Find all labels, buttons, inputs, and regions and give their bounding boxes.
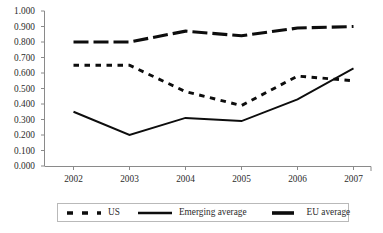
legend-label-emerging-average: Emerging average: [179, 208, 247, 217]
x-tick-label: 2007: [344, 174, 363, 184]
legend-swatch-us-icon: [66, 207, 102, 219]
series-line-eu-average: [74, 27, 354, 43]
legend-label-eu-average: EU average: [307, 208, 351, 217]
y-tick-label: 0.300: [14, 115, 35, 125]
x-tick-label: 2004: [176, 174, 195, 184]
y-tick-label: 1.000: [14, 6, 35, 16]
y-tick-label: 0.400: [14, 99, 35, 109]
x-tick-label: 2006: [288, 174, 307, 184]
y-tick-label: 0.100: [14, 146, 35, 156]
legend-swatch-eu-average-icon: [265, 207, 301, 219]
x-tick-label: 2005: [232, 174, 251, 184]
legend-swatch-emerging-average-icon: [137, 207, 173, 219]
y-tick-label: 0.800: [14, 37, 35, 47]
y-tick-label: 0.700: [14, 53, 35, 63]
y-tick-label: 0.200: [14, 130, 35, 140]
y-tick-label: 0.000: [14, 161, 35, 171]
y-axis-tick-labels: 1.000 0.900 0.800 0.700 0.600 0.500 0.40…: [14, 6, 35, 171]
x-axis-tick-labels: 2002 2003 2004 2005 2006 2007: [64, 174, 363, 184]
series-line-us: [74, 65, 354, 105]
line-chart-plot: 1.000 0.900 0.800 0.700 0.600 0.500 0.40…: [0, 0, 383, 233]
legend-item-eu-average: EU average: [265, 204, 351, 221]
x-tick-label: 2002: [64, 174, 83, 184]
chart-figure: 1.000 0.900 0.800 0.700 0.600 0.500 0.40…: [0, 0, 383, 233]
y-tick-label: 0.500: [14, 84, 35, 94]
chart-legend: US Emerging average EU average: [57, 203, 349, 222]
y-axis: [41, 11, 45, 166]
x-axis: [45, 167, 372, 172]
legend-item-emerging-average: Emerging average: [137, 204, 247, 221]
y-tick-label: 0.600: [14, 68, 35, 78]
legend-label-us: US: [108, 208, 120, 217]
x-tick-label: 2003: [120, 174, 139, 184]
legend-item-us: US: [66, 204, 120, 221]
y-tick-label: 0.900: [14, 22, 35, 32]
